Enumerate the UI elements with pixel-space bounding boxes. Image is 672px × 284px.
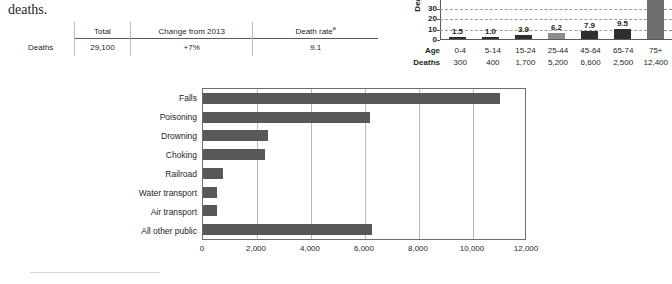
column-header-change: Change from 2013	[131, 22, 253, 39]
category-label: Falls	[126, 88, 202, 107]
mini-chart-bar-group	[639, 0, 672, 39]
deaths-by-cause-x-axis: 02,0004,0006,0008,00010,00012,000	[202, 240, 526, 256]
bar-row	[203, 89, 525, 108]
mini-chart-deaths-row: Deaths 3004001,7005,2006,6002,50012,400	[404, 56, 672, 68]
mini-chart-x-axis	[440, 39, 672, 40]
deaths-by-cause-category-labels: FallsPoisoningDrowningChokingRailroadWat…	[126, 88, 202, 240]
body-text: deaths.	[8, 2, 47, 18]
table-corner-cell	[28, 22, 74, 39]
cell-change: +7%	[131, 39, 253, 57]
category-label: Railroad	[126, 164, 202, 183]
bar-row	[203, 145, 525, 164]
mini-chart-value-label: 1.5	[452, 28, 463, 36]
deaths-by-cause-bars	[203, 89, 525, 239]
x-tick-label: 0	[200, 244, 204, 253]
mini-chart-plot-area: 0102030 1.51.03.96.27.99.5	[440, 0, 672, 40]
mini-chart-y-tick-label: 30	[428, 5, 437, 13]
footnote-separator	[30, 272, 160, 273]
column-header-death-rate-label: Death rate	[295, 26, 332, 35]
x-tick-label: 8,000	[408, 244, 428, 253]
bar-row	[203, 202, 525, 221]
bar	[203, 93, 500, 104]
mini-chart-bar-group: 1.0	[474, 0, 507, 39]
mini-chart-y-tick-mark	[437, 30, 440, 31]
deaths-by-cause-plot-area	[202, 88, 526, 240]
mini-chart-age-cell: 0-4	[444, 46, 477, 55]
mini-chart-bar	[614, 29, 631, 39]
mini-chart-y-tick-mark	[437, 40, 440, 41]
mini-chart-deaths-cell: 5,200	[542, 58, 575, 67]
bar	[203, 130, 268, 141]
mini-chart-bar-group: 3.9	[507, 0, 540, 39]
mini-chart-value-label: 6.2	[551, 24, 562, 32]
mini-chart-age-cell: 75+	[639, 46, 672, 55]
row-label-deaths: Deaths	[28, 39, 74, 57]
bar-row	[203, 220, 525, 239]
bar	[203, 112, 370, 123]
category-label: Drowning	[126, 126, 202, 145]
death-rate-by-age-chart: Death 0102030 1.51.03.96.27.99.5 Age 0-4…	[404, 0, 672, 76]
mini-chart-bar-group: 1.5	[441, 0, 474, 39]
mini-chart-deaths-cell: 12,400	[639, 58, 672, 67]
bar	[203, 149, 265, 160]
column-header-total-label: Total	[94, 26, 111, 35]
page-root: deaths. Total Change from 2013 Death rat…	[0, 0, 672, 284]
category-label: Water transport	[126, 183, 202, 202]
x-tick-label: 6,000	[354, 244, 374, 253]
mini-chart-y-tick-label: 20	[428, 15, 437, 23]
bar-row	[203, 183, 525, 202]
bar	[203, 224, 372, 235]
mini-chart-deaths-cell: 400	[477, 58, 510, 67]
mini-chart-y-tick-label: 10	[428, 26, 437, 34]
table-row: Deaths 29,100 +7% 9.1	[28, 39, 378, 57]
mini-chart-age-row: Age 0-45-1415-2425-4445-6465-7475+	[404, 44, 672, 56]
x-tick-label: 2,000	[246, 244, 266, 253]
summary-table: Total Change from 2013 Death ratea Death…	[28, 22, 378, 56]
mini-chart-age-label: Age	[404, 46, 444, 55]
mini-chart-age-cell: 45-64	[574, 46, 607, 55]
deaths-by-cause-chart: FallsPoisoningDrowningChokingRailroadWat…	[126, 88, 546, 258]
bar	[203, 187, 217, 198]
column-header-total: Total	[74, 22, 131, 39]
table-header-row: Total Change from 2013 Death ratea	[28, 22, 378, 39]
x-tick-label: 12,000	[514, 244, 538, 253]
column-header-death-rate: Death ratea	[253, 22, 378, 39]
mini-chart-value-label: 3.9	[518, 26, 529, 34]
mini-chart-age-cell: 25-44	[542, 46, 575, 55]
mini-chart-deaths-cell: 6,600	[574, 58, 607, 67]
cell-total: 29,100	[74, 39, 131, 57]
mini-chart-deaths-cell: 1,700	[509, 58, 542, 67]
x-tick-label: 4,000	[300, 244, 320, 253]
mini-chart-y-tick-mark	[437, 19, 440, 20]
mini-chart-bar	[581, 31, 598, 39]
mini-chart-bar	[449, 37, 466, 39]
mini-chart-deaths-label: Deaths	[404, 58, 444, 67]
mini-chart-age-cell: 5-14	[477, 46, 510, 55]
mini-chart-deaths-cell: 2,500	[607, 58, 640, 67]
category-label: All other public	[126, 221, 202, 240]
x-tick-label: 10,000	[460, 244, 484, 253]
mini-chart-bars: 1.51.03.96.27.99.5	[441, 0, 672, 39]
mini-chart-y-tick-mark	[437, 9, 440, 10]
category-label: Poisoning	[126, 107, 202, 126]
bar-row	[203, 108, 525, 127]
mini-chart-bar	[647, 0, 664, 39]
mini-chart-bar	[482, 37, 499, 39]
column-header-change-label: Change from 2013	[159, 26, 225, 35]
mini-chart-value-label: 1.0	[485, 28, 496, 36]
mini-chart-age-cell: 15-24	[509, 46, 542, 55]
mini-chart-value-label: 7.9	[584, 22, 595, 30]
cell-death-rate: 9.1	[253, 39, 378, 57]
mini-chart-bar	[548, 33, 565, 40]
mini-chart-data-table: Age 0-45-1415-2425-4445-6465-7475+ Death…	[404, 44, 672, 68]
column-header-death-rate-sup: a	[333, 25, 336, 31]
mini-chart-bar-group: 9.5	[606, 0, 639, 39]
mini-chart-bar-group: 6.2	[540, 0, 573, 39]
bar	[203, 205, 217, 216]
category-label: Choking	[126, 145, 202, 164]
bar-row	[203, 164, 525, 183]
mini-chart-y-axis-label: Death	[413, 0, 422, 18]
mini-chart-value-label: 9.5	[617, 20, 628, 28]
category-label: Air transport	[126, 202, 202, 221]
mini-chart-bar	[515, 35, 532, 39]
